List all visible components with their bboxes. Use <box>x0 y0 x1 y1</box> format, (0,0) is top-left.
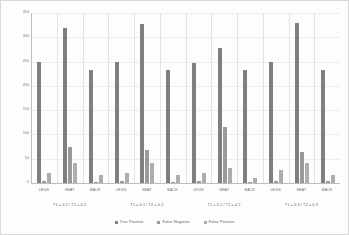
category-bar-cluster <box>238 13 263 183</box>
category-bar-cluster <box>315 13 340 183</box>
bar <box>68 147 72 183</box>
legend-label: False Negative <box>162 220 189 224</box>
y-axis-tick-label: 100 <box>23 133 29 137</box>
x-axis-category-label: SEAT <box>211 186 237 195</box>
bar <box>150 163 154 183</box>
legend-item[interactable]: False Negative <box>157 220 189 224</box>
bar <box>37 62 41 183</box>
x-axis-category-label: BACK <box>237 186 263 195</box>
category-bar-cluster <box>32 13 58 183</box>
legend-swatch-icon <box>157 221 160 224</box>
legend-swatch-icon <box>115 221 118 224</box>
legend-label: True Positive <box>120 220 144 224</box>
bar <box>63 28 67 183</box>
category-bar-cluster <box>290 13 316 183</box>
x-axis-group-captions: T1 = 0.2 / T2 = 0.1T1 = 0.1 / T2 = 0.2T1… <box>31 201 340 210</box>
bar <box>140 24 144 183</box>
x-axis-category-label: BACK <box>160 186 186 195</box>
x-axis-category-label: LEGS <box>108 186 134 195</box>
bar <box>47 173 51 183</box>
bar <box>94 182 98 183</box>
bar <box>243 70 247 183</box>
x-axis-category-label: LEGS <box>263 186 289 195</box>
group-caption: T1 = 0.1 / T2 = 0.1 <box>186 201 263 210</box>
category-label-group: LEGSSEATBACK <box>31 186 108 195</box>
bar <box>166 70 170 183</box>
category-bar-cluster <box>187 13 213 183</box>
bar <box>171 182 175 183</box>
x-axis-category-labels: LEGSSEATBACKLEGSSEATBACKLEGSSEATBACKLEGS… <box>31 186 340 195</box>
bar <box>89 70 93 183</box>
parameter-group <box>264 13 340 183</box>
x-axis-category-label: SEAT <box>134 186 160 195</box>
bar <box>279 170 283 183</box>
parameter-group <box>32 13 109 183</box>
bar <box>192 63 196 183</box>
bar <box>218 48 222 183</box>
category-label-group: LEGSSEATBACK <box>186 186 263 195</box>
bar <box>326 181 330 183</box>
x-axis-category-label: BACK <box>314 186 340 195</box>
bar <box>331 175 335 183</box>
x-axis-category-label: LEGS <box>31 186 57 195</box>
x-axis-category-label: SEAT <box>57 186 83 195</box>
category-bar-cluster <box>109 13 135 183</box>
bar <box>228 168 232 183</box>
legend-item[interactable]: True Positive <box>115 220 144 224</box>
y-axis-tick-label: 350 <box>23 11 29 15</box>
x-axis-category-label: LEGS <box>186 186 212 195</box>
bar-groups <box>32 13 340 183</box>
bar <box>99 175 103 183</box>
y-axis-tick-label: 300 <box>23 35 29 39</box>
bar <box>321 70 325 183</box>
bar <box>73 163 77 183</box>
bar <box>176 175 180 183</box>
bar <box>269 62 273 183</box>
bar <box>253 178 257 183</box>
category-bar-cluster <box>84 13 109 183</box>
y-axis-tick-label: 250 <box>23 60 29 64</box>
x-axis-category-label: BACK <box>83 186 109 195</box>
bar <box>248 182 252 183</box>
category-label-group: LEGSSEATBACK <box>263 186 340 195</box>
y-axis-tick-label: 150 <box>23 108 29 112</box>
plot-area: 050100150200250300350 <box>31 13 340 184</box>
bar <box>295 23 299 183</box>
y-axis-tick-label: 200 <box>23 84 29 88</box>
chart-legend: True PositiveFalse NegativeFalse Positiv… <box>1 217 348 227</box>
y-axis-tick-label: 50 <box>25 157 29 161</box>
y-axis-tick-label: 0 <box>27 181 29 185</box>
bar-chart-figure: 050100150200250300350 LEGSSEATBACKLEGSSE… <box>0 0 349 235</box>
bar <box>42 181 46 183</box>
legend-swatch-icon <box>204 221 207 224</box>
group-caption: T1 = 0.1 / T2 = 0.2 <box>108 201 185 210</box>
bar <box>300 152 304 183</box>
bar <box>120 181 124 183</box>
bar <box>305 163 309 183</box>
group-caption: T1 = 0.2 / T2 = 0.1 <box>31 201 108 210</box>
bar <box>145 150 149 184</box>
category-bar-cluster <box>135 13 161 183</box>
bar <box>274 181 278 183</box>
legend-item[interactable]: False Positive <box>204 220 235 224</box>
x-axis-category-label: SEAT <box>289 186 315 195</box>
category-label-group: LEGSSEATBACK <box>108 186 185 195</box>
bar <box>197 181 201 183</box>
parameter-group <box>187 13 264 183</box>
category-bar-cluster <box>264 13 290 183</box>
category-bar-cluster <box>161 13 186 183</box>
category-bar-cluster <box>212 13 238 183</box>
category-bar-cluster <box>58 13 84 183</box>
parameter-group <box>109 13 186 183</box>
group-caption: T1 = 0.3 / T2 = 0.3 <box>263 201 340 210</box>
bar <box>223 127 227 183</box>
legend-label: False Positive <box>209 220 235 224</box>
bar <box>115 62 119 183</box>
bar <box>125 173 129 183</box>
bar <box>202 173 206 183</box>
